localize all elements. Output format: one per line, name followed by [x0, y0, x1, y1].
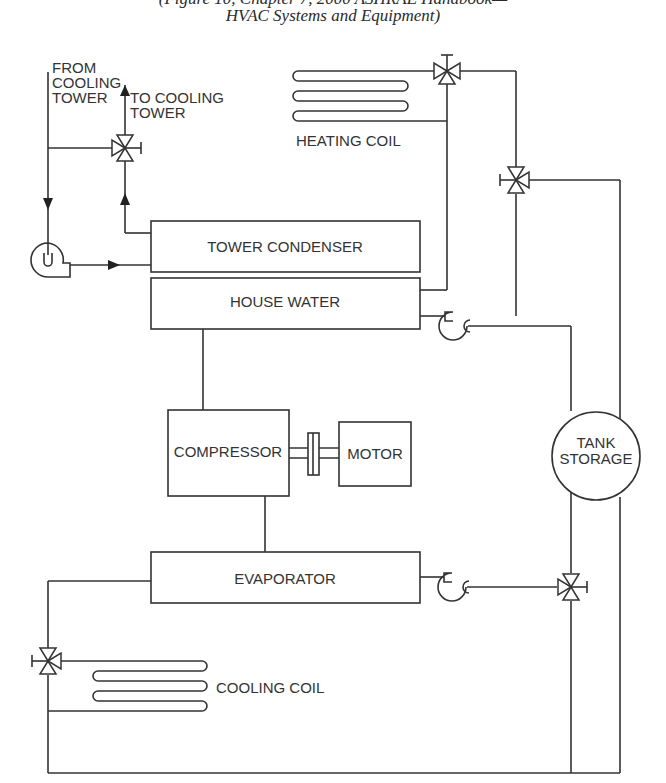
hvac-schematic: FROM COOLING TOWER TO COOLING TOWER: [0, 0, 666, 783]
three-way-valve-icon[interactable]: [32, 648, 61, 674]
tank-storage[interactable]: TANK STORAGE: [552, 412, 640, 500]
pump-icon[interactable]: [439, 312, 470, 340]
cooling-coil-label: COOLING COIL: [216, 679, 324, 696]
compressor-label: COMPRESSOR: [174, 443, 283, 460]
house-water-box[interactable]: HOUSE WATER: [151, 278, 420, 329]
heating-coil-label: HEATING COIL: [296, 132, 401, 149]
motor-box[interactable]: MOTOR: [339, 422, 411, 486]
evaporator-box[interactable]: EVAPORATOR: [151, 552, 420, 603]
flow-arrow-up-icon: [120, 193, 130, 205]
tower-condenser-box[interactable]: TOWER CONDENSER: [151, 221, 420, 272]
to-cooling-tower-label: TO COOLING TOWER: [130, 89, 224, 121]
three-way-valve-icon[interactable]: [112, 135, 141, 161]
piping: [48, 71, 620, 773]
tower-condenser-label: TOWER CONDENSER: [207, 238, 363, 255]
tank-label: TANK: [577, 434, 616, 451]
svg-text:TOWER: TOWER: [52, 89, 108, 106]
pump-icon[interactable]: [31, 243, 70, 277]
svg-text:TOWER: TOWER: [130, 104, 186, 121]
motor-label: MOTOR: [347, 445, 403, 462]
cooling-coil: COOLING COIL: [48, 661, 324, 711]
flow-arrow-down-icon: [43, 198, 53, 210]
heating-coil: HEATING COIL: [293, 71, 447, 149]
evaporator-label: EVAPORATOR: [234, 570, 336, 587]
house-water-label: HOUSE WATER: [230, 293, 340, 310]
three-way-valve-icon[interactable]: [500, 167, 529, 193]
flow-arrow-right-icon: [108, 260, 120, 270]
compressor-box[interactable]: COMPRESSOR: [168, 410, 289, 496]
storage-label: STORAGE: [559, 450, 632, 467]
three-way-valve-icon[interactable]: [558, 574, 587, 600]
shaft-coupling: [289, 433, 339, 475]
pump-icon[interactable]: [438, 573, 469, 601]
flow-arrow-up-icon: [120, 85, 130, 96]
three-way-valve-icon[interactable]: [434, 55, 460, 84]
from-cooling-tower-label: FROM COOLING TOWER: [52, 59, 121, 106]
